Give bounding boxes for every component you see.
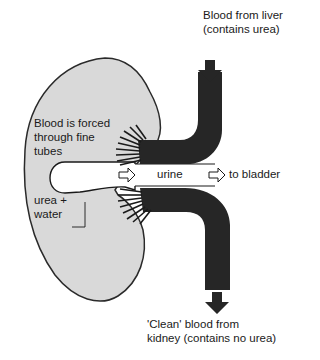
label-forced-2: through fine [34,130,95,144]
label-blood-in-1: Blood from liver [203,8,283,22]
label-urine: urine [157,167,183,181]
label-forced-3: tubes [34,144,62,158]
label-blood-out-2: kidney (contains no urea) [147,331,276,345]
arrow-out-icon [205,292,229,314]
label-blood-out-1: 'Clean' blood from [147,317,239,331]
label-urea-1: urea + [34,193,67,207]
label-forced-1: Blood is forced [34,116,110,130]
bladder-arrow-icon [209,168,225,182]
label-urea-2: water [34,207,62,221]
label-to-bladder: to bladder [229,167,280,181]
label-blood-in-2: (contains urea) [203,22,280,36]
blood-vessel-out [140,188,230,290]
